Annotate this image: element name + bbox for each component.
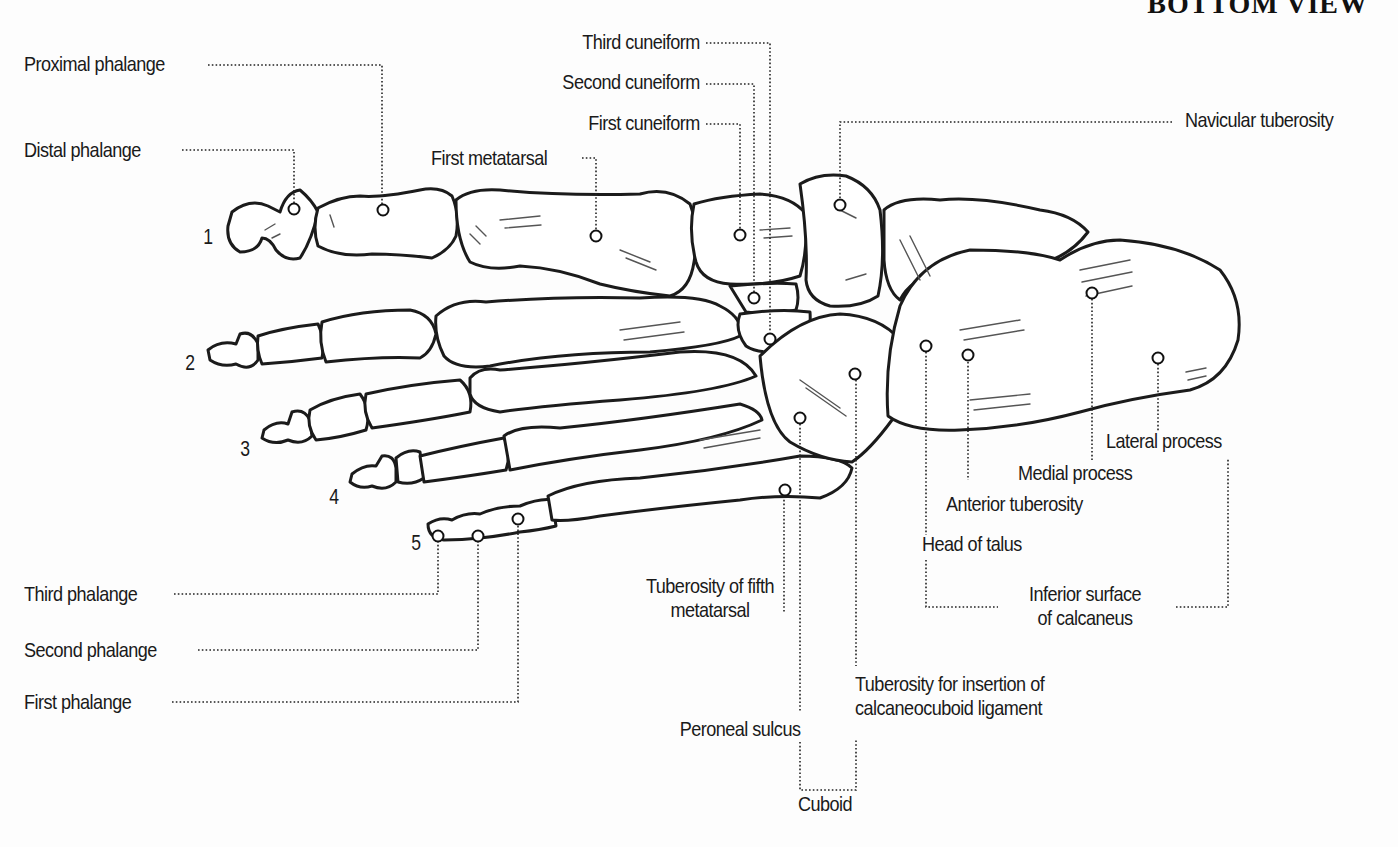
toe-4-proximal — [420, 438, 509, 482]
label-anterior-tuberosity: Anterior tuberosity — [946, 492, 1083, 516]
toe-5-metatarsal — [548, 456, 852, 521]
label-first-cuneiform: First cuneiform — [588, 111, 700, 135]
marker-medial-process — [1087, 288, 1098, 299]
label-medial-process: Medial process — [1018, 461, 1132, 485]
marker-lateral-process — [1153, 353, 1164, 364]
marker-peroneal-sulcus — [795, 413, 806, 424]
cuboid-bone — [760, 314, 901, 462]
toe-4-distal — [350, 456, 396, 489]
label-peroneal-sulcus: Peroneal sulcus — [679, 717, 800, 741]
toe-3-distal — [262, 411, 312, 443]
marker-proximal-phalange — [378, 205, 389, 216]
label-second-phalange: Second phalange — [24, 638, 157, 662]
marker-tuberosity-fifth — [780, 485, 791, 496]
toe-number-2: 2 — [185, 350, 195, 376]
first-metatarsal-bone — [456, 190, 696, 296]
first-cuneiform-bone — [691, 194, 806, 284]
label-distal-phalange: Distal phalange — [24, 138, 141, 162]
label-proximal-phalange: Proximal phalange — [24, 52, 165, 76]
label-tuberosity-fifth-line2: metatarsal — [626, 598, 795, 622]
toe-number-1: 1 — [203, 224, 213, 250]
toe-2-middle — [258, 324, 324, 364]
label-inferior-surface-line2: of calcaneus — [1012, 606, 1158, 630]
label-cuboid: Cuboid — [798, 792, 852, 816]
proximal-phalange-1-bone — [315, 189, 457, 258]
foot-bones-diagram: BOTTOM VIEW — [0, 0, 1398, 847]
marker-third-cuneiform — [765, 334, 776, 345]
marker-distal-phalange — [289, 204, 300, 215]
toe-3-proximal — [365, 380, 471, 428]
label-second-cuneiform: Second cuneiform — [563, 70, 700, 94]
label-tuberosity-calcaneocuboid: Tuberosity for insertion of calcaneocubo… — [855, 672, 1044, 720]
label-first-phalange: First phalange — [24, 690, 131, 714]
tarsal-bones — [691, 175, 1239, 462]
marker-third-phalange — [433, 531, 444, 542]
toe-number-5: 5 — [411, 530, 421, 556]
label-inferior-surface-calcaneus: Inferior surface of calcaneus — [1012, 582, 1158, 630]
marker-head-of-talus — [921, 341, 932, 352]
toe-number-4: 4 — [329, 484, 339, 510]
toe-3-middle — [309, 394, 368, 440]
label-third-phalange: Third phalange — [24, 582, 137, 606]
marker-first-metatarsal — [591, 231, 602, 242]
navicular-bone — [800, 175, 883, 306]
toe-number-3: 3 — [240, 436, 250, 462]
label-head-of-talus: Head of talus — [922, 532, 1022, 556]
calcaneus-bone — [887, 240, 1239, 430]
label-first-metatarsal: First metatarsal — [431, 146, 547, 170]
marker-tuberosity-insertion — [850, 369, 861, 380]
toe-2-distal — [208, 333, 258, 367]
label-inferior-surface-line1: Inferior surface — [1012, 582, 1158, 606]
toe-4-metatarsal — [504, 404, 762, 470]
label-third-cuneiform: Third cuneiform — [582, 30, 700, 54]
marker-first-cuneiform — [735, 230, 746, 241]
label-lateral-process: Lateral process — [1106, 429, 1222, 453]
label-tuberosity-fifth-line1: Tuberosity of fifth — [626, 574, 795, 598]
toe-5-phalanges — [428, 500, 556, 540]
marker-navicular-tuberosity — [835, 200, 846, 211]
label-navicular-tuberosity: Navicular tuberosity — [1185, 108, 1333, 132]
label-tuberosity-insertion-line2: calcaneocuboid ligament — [855, 696, 1044, 720]
marker-first-phalange — [513, 514, 524, 525]
toe-2-proximal — [321, 310, 436, 362]
marker-second-cuneiform — [749, 293, 760, 304]
label-tuberosity-fifth-metatarsal: Tuberosity of fifth metatarsal — [626, 574, 795, 622]
marker-anterior-tuberosity — [963, 350, 974, 361]
marker-second-phalange — [473, 531, 484, 542]
label-tuberosity-insertion-line1: Tuberosity for insertion of — [855, 672, 1044, 696]
